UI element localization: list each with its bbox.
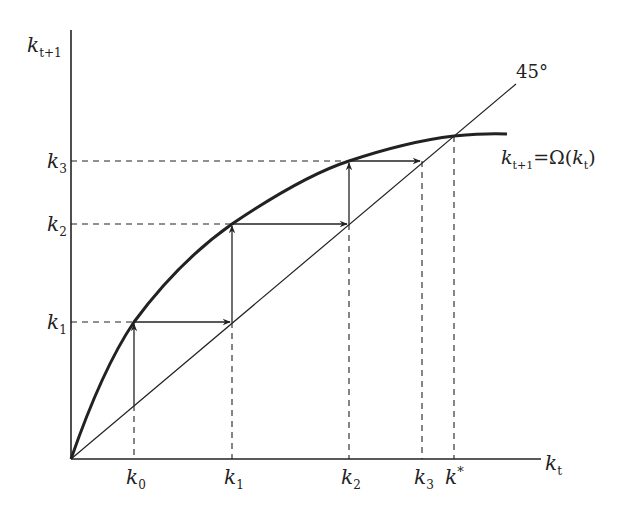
y-tick-k1: k1 bbox=[47, 310, 67, 337]
y-tick-k2: k2 bbox=[47, 212, 67, 239]
x-tick-k2: k2 bbox=[341, 465, 361, 492]
x-tick-k0: k0 bbox=[126, 465, 146, 492]
x-tick-kstar: k* bbox=[445, 464, 464, 489]
curve-label: kt+1=Ω(kt) bbox=[501, 146, 596, 172]
omega-curve bbox=[71, 134, 507, 459]
line-45-degree bbox=[71, 84, 516, 459]
staircase-arrows bbox=[134, 161, 420, 405]
x-tick-k1: k1 bbox=[224, 465, 244, 492]
line-45-label: 45° bbox=[516, 61, 548, 82]
y-axis-label: kt+1 bbox=[27, 33, 62, 60]
x-axis-label: kt bbox=[545, 451, 562, 478]
x-tick-k3: k3 bbox=[414, 465, 434, 492]
diagram-canvas: kt+1 kt 45° kt+1=Ω(kt) k1 k2 k3 k0 k1 k2… bbox=[0, 0, 641, 511]
y-tick-k3: k3 bbox=[47, 149, 67, 176]
